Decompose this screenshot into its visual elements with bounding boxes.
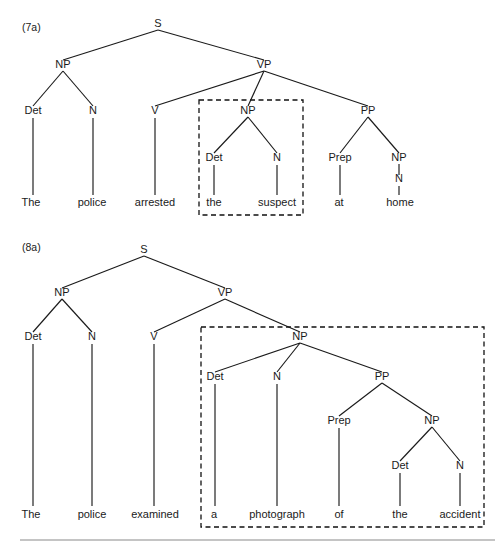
node-np-pp: NP [391,151,406,163]
node-np-obj: NP [292,330,307,342]
leaf-the-2: the [392,508,407,520]
tree-branch [155,71,264,106]
node-s: S [154,17,161,29]
tree-branch [264,71,368,106]
node-n-3: N [395,172,403,184]
node-det-1: Det [24,104,41,116]
node-v: V [151,104,159,116]
tree-branch [382,383,432,416]
leaf-photograph: photograph [249,508,305,520]
tree-branch [248,117,277,153]
node-pp: PP [375,370,390,382]
node-n-1: N [89,104,97,116]
leaf-of: of [334,508,344,520]
leaf-at: at [334,196,343,208]
node-n-1: N [88,330,96,342]
node-s: S [140,243,147,255]
node-n-3: N [456,459,464,471]
tree-branch [300,343,382,372]
tree-branch [339,383,382,416]
leaf-suspect: suspect [258,196,296,208]
leaf-examined: examined [131,508,179,520]
leaf-the-2: the [206,196,221,208]
tree-branch [215,343,300,372]
leaf-police-2: police [78,508,107,520]
node-np-pp: NP [424,414,439,426]
node-det-1: Det [24,330,41,342]
node-v: V [150,330,158,342]
tree-branch [63,30,158,60]
tree-branch [62,299,92,332]
syntax-tree-figure: SNPVPDetNVNPPPDetNPrepNPNThepolicearrest… [0,0,503,552]
tree-branch [340,117,368,153]
tree-branch [368,117,399,153]
tree-branch [432,427,460,461]
tree-branch [62,256,144,288]
node-np-obj: NP [240,104,255,116]
node-prep: Prep [328,151,351,163]
node-n-2: N [273,370,281,382]
node-n-2: N [273,151,281,163]
leaf-home: home [386,196,414,208]
node-np-subj: NP [54,286,69,298]
tree-branch [33,299,62,332]
tree-branch [214,117,248,153]
tree-branch [400,427,432,461]
tree-branch [63,71,93,106]
node-prep: Prep [327,414,350,426]
example-number-label: (8a) [22,241,41,253]
tree-branch [158,30,264,60]
leaf-accident: accident [440,508,481,520]
tree-8a: SNPVPDetNVNPDetNPPPrepNPDetNThepoliceexa… [22,241,484,527]
tree-branch [33,71,63,106]
node-det-3: Det [391,459,408,471]
focus-constituent-box [201,327,484,527]
node-vp: VP [218,286,233,298]
node-det-2: Det [206,370,223,382]
node-det-2: Det [205,151,222,163]
tree-branch [248,71,264,106]
example-number-label: (7a) [22,21,41,33]
leaf-arrested: arrested [135,196,175,208]
node-vp: VP [257,58,272,70]
leaf-the-1: The [22,508,41,520]
node-np-subj: NP [55,58,70,70]
node-pp: PP [361,104,376,116]
tree-branch [144,256,225,288]
leaf-the-1: The [22,196,41,208]
leaf-a: a [211,508,218,520]
leaf-police-1: police [78,196,107,208]
tree-7a: SNPVPDetNVNPPPDetNPrepNPNThepolicearrest… [22,17,414,215]
